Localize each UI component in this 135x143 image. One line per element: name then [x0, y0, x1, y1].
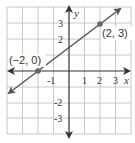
x-tick: 3 — [113, 75, 118, 86]
point-label: (2, 3) — [102, 27, 128, 39]
x-tick: 1 — [82, 75, 87, 86]
x-tick: -1 — [47, 75, 55, 86]
y-axis-label: y — [73, 7, 79, 19]
y-tick: -3 — [54, 113, 62, 124]
y-tick: -2 — [54, 97, 62, 108]
coordinate-plane: -1 1 2 3 x 3 2 -2 -3 y (−2, 0) (2, 3) — [0, 0, 135, 143]
tick-labels: -1 1 2 3 x 3 2 -2 -3 y — [47, 7, 129, 124]
point-label: (−2, 0) — [9, 54, 41, 66]
point-2-3 — [97, 21, 103, 27]
y-tick: 2 — [58, 34, 63, 45]
plotted-line — [9, 71, 38, 93]
x-tick: 2 — [97, 75, 102, 86]
y-tick: 3 — [58, 18, 63, 29]
point-neg2-0 — [35, 68, 41, 74]
x-axis-label: x — [123, 74, 129, 86]
